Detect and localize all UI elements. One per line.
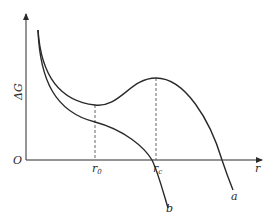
curve-a-label: a: [231, 190, 238, 203]
curve-b-label: b: [166, 202, 173, 215]
curve-a: [38, 30, 233, 190]
rc-label: rc: [153, 162, 162, 176]
y-axis-label: ΔG: [12, 83, 25, 101]
delta-g-diagram: ΔG O r r0 rc a b: [0, 0, 272, 223]
r0-label: r0: [92, 162, 102, 176]
x-axis-label: r: [255, 162, 261, 175]
diagram-canvas: ΔG O r r0 rc a b: [0, 0, 272, 223]
origin-label: O: [13, 154, 22, 167]
curve-b: [38, 30, 168, 208]
